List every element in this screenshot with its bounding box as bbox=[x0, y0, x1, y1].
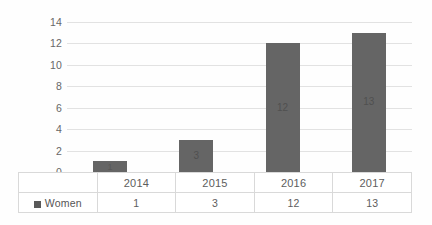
table-cell-category: 2014 bbox=[97, 173, 176, 193]
bar[interactable]: 3 bbox=[179, 140, 213, 172]
y-axis-tick-label: 4 bbox=[56, 123, 62, 135]
y-axis: 02468101214 bbox=[30, 22, 62, 172]
bar-data-label: 13 bbox=[352, 97, 386, 107]
table-row-categories: 2014 2015 2016 2017 bbox=[19, 173, 412, 193]
y-axis-tick-label: 14 bbox=[50, 16, 62, 28]
bar[interactable]: 12 bbox=[266, 43, 300, 172]
y-axis-tick-label: 6 bbox=[56, 102, 62, 114]
bar-series-women: 131213 bbox=[67, 22, 412, 172]
table-row-women: Women 1 3 12 13 bbox=[19, 193, 412, 213]
bar-data-label: 3 bbox=[179, 151, 213, 161]
table-cell-value: 1 bbox=[97, 193, 176, 213]
bar-data-label: 1 bbox=[93, 162, 127, 171]
y-axis-tick-label: 2 bbox=[56, 145, 62, 157]
data-table: 2014 2015 2016 2017 Women 1 3 12 13 bbox=[18, 172, 412, 213]
y-axis-tick-label: 8 bbox=[56, 80, 62, 92]
bar-slot: 1 bbox=[67, 22, 153, 172]
legend-swatch-icon bbox=[34, 201, 41, 208]
bar-slot: 12 bbox=[240, 22, 326, 172]
column-chart-with-data-table: 02468101214 131213 2014 2015 2016 2017 W… bbox=[0, 0, 432, 225]
table-cell-category: 2015 bbox=[176, 173, 255, 193]
table-cell-category: 2017 bbox=[333, 173, 412, 193]
table-cell-value: 3 bbox=[176, 193, 255, 213]
legend-label: Women bbox=[45, 197, 82, 209]
bar-data-label: 12 bbox=[266, 103, 300, 113]
y-axis-tick-label: 12 bbox=[50, 37, 62, 49]
y-axis-tick-label: 10 bbox=[50, 59, 62, 71]
plot-area: 131213 bbox=[67, 22, 412, 172]
bar-slot: 13 bbox=[326, 22, 412, 172]
bar[interactable]: 13 bbox=[352, 33, 386, 172]
table-corner-cell bbox=[19, 173, 98, 193]
legend-item-women: Women bbox=[19, 193, 98, 213]
bar-slot: 3 bbox=[153, 22, 239, 172]
table-cell-value: 13 bbox=[333, 193, 412, 213]
table-cell-category: 2016 bbox=[254, 173, 333, 193]
bar[interactable]: 1 bbox=[93, 161, 127, 172]
table-cell-value: 12 bbox=[254, 193, 333, 213]
